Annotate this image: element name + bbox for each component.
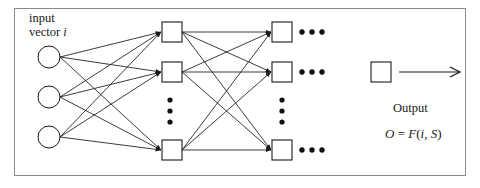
figure-canvas: inputvector i Output O = F(i, S) bbox=[0, 0, 480, 188]
output-formula: O = F(i, S) bbox=[385, 127, 442, 142]
second-node bbox=[272, 62, 292, 82]
second-node bbox=[272, 140, 292, 160]
edges-hidden-to-second bbox=[182, 32, 271, 150]
hidden-node bbox=[162, 22, 182, 42]
output-node bbox=[371, 62, 391, 82]
input-label-line2-prefix: vector bbox=[29, 25, 63, 39]
second-layer-nodes bbox=[272, 22, 292, 160]
formula-close-paren: ) bbox=[437, 126, 441, 141]
output-caption: Output bbox=[393, 101, 428, 115]
formula-function: F bbox=[408, 126, 416, 141]
input-label-line1: input bbox=[29, 11, 55, 25]
hidden-node bbox=[162, 62, 182, 82]
network-graphics bbox=[0, 0, 480, 188]
second-node bbox=[272, 22, 292, 42]
vertical-ellipsis-second bbox=[279, 97, 284, 124]
hidden-node bbox=[162, 140, 182, 160]
edges-input-to-hidden bbox=[60, 32, 161, 150]
hidden-layer-nodes bbox=[162, 22, 182, 160]
horizontal-ellipsis-row-3 bbox=[299, 147, 324, 152]
horizontal-ellipsis-row-1 bbox=[299, 29, 324, 34]
horizontal-ellipsis-row-2 bbox=[299, 69, 324, 74]
input-nodes bbox=[38, 46, 60, 148]
input-node bbox=[38, 126, 60, 148]
input-label-variable: i bbox=[63, 25, 66, 39]
formula-lhs: O bbox=[385, 126, 394, 141]
vertical-ellipsis-hidden bbox=[167, 97, 172, 124]
input-node bbox=[38, 86, 60, 108]
formula-equals: = bbox=[394, 126, 408, 141]
input-vector-label: inputvector i bbox=[29, 11, 67, 39]
input-node bbox=[38, 46, 60, 68]
